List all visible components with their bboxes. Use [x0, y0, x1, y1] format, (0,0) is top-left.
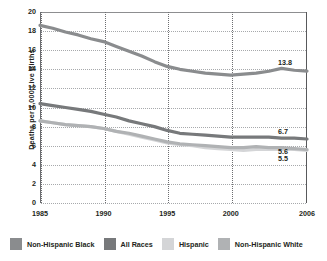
- legend-item: Hispanic: [162, 238, 209, 250]
- y-tick-label: 10: [18, 104, 36, 111]
- infant-mortality-line-chart: Deaths per 1,000 Live Births 02468101214…: [0, 0, 327, 261]
- legend-swatch: [162, 238, 174, 250]
- x-tick-label: 2000: [211, 209, 251, 218]
- legend-swatch: [104, 238, 116, 250]
- legend-label: Non-Hispanic Black: [27, 240, 95, 249]
- x-tick-label: 1985: [20, 209, 60, 218]
- x-tick-label: 1990: [84, 209, 124, 218]
- y-tick-label: 0: [18, 199, 36, 206]
- y-tick-label: 16: [18, 46, 36, 53]
- value-label: 6.7: [278, 127, 288, 136]
- x-tick-label: 1995: [147, 209, 187, 218]
- y-tick-label: 14: [18, 65, 36, 72]
- y-axis-title: Deaths per 1,000 Live Births: [27, 15, 36, 185]
- y-tick-label: 4: [18, 161, 36, 168]
- gridline-y-0: [41, 203, 306, 204]
- legend-label: All Races: [121, 240, 153, 249]
- chart-legend: Non-Hispanic BlackAll RacesHispanicNon-H…: [10, 234, 320, 254]
- legend-swatch: [10, 238, 22, 250]
- value-label: 13.8: [278, 58, 292, 67]
- series-line: [40, 25, 307, 75]
- y-tick-label: 20: [18, 8, 36, 15]
- legend-label: Non-Hispanic White: [235, 240, 303, 249]
- legend-swatch: [218, 238, 230, 250]
- legend-item: Non-Hispanic Black: [10, 238, 95, 250]
- legend-item: Non-Hispanic White: [218, 238, 303, 250]
- y-tick-label: 6: [18, 142, 36, 149]
- y-tick-label: 18: [18, 27, 36, 34]
- y-tick-label: 8: [18, 123, 36, 130]
- legend-item: All Races: [104, 238, 153, 250]
- y-tick-label: 12: [18, 84, 36, 91]
- x-tick-label: 2006: [287, 209, 327, 218]
- value-label: 5.5: [278, 154, 288, 163]
- series-lines: [40, 12, 307, 203]
- series-line: [40, 104, 307, 139]
- y-tick-label: 2: [18, 180, 36, 187]
- legend-label: Hispanic: [179, 240, 209, 249]
